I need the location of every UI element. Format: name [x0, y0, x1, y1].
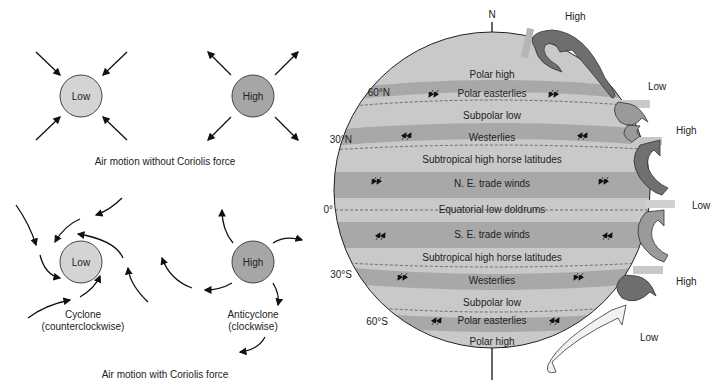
hadley-cell-south-icon	[638, 210, 668, 262]
globe: N	[323, 9, 660, 380]
latitude-30s: 30°S	[330, 269, 352, 280]
band-label: N. E. trade winds	[454, 178, 530, 189]
cell-label-high: High	[676, 125, 697, 136]
latitude-30n: 30°N	[330, 134, 352, 145]
cyclone-low-label: Low	[72, 257, 91, 268]
band-label: Westerlies	[469, 132, 516, 143]
cell-label-low: Low	[640, 332, 659, 343]
low-label: Low	[72, 91, 91, 102]
ferrel-cell-south-icon	[617, 275, 656, 301]
band-label: Subtropical high horse latitudes	[422, 252, 562, 263]
band-label: Subpolar low	[463, 110, 522, 121]
band-label: Polar easterlies	[458, 88, 527, 99]
band-label: Subpolar low	[463, 297, 522, 308]
cyclone-label-line2: (counterclockwise)	[42, 321, 125, 332]
without-coriolis-panel: Low High Air motion without Coriolis for…	[36, 52, 298, 167]
caption-without-coriolis: Air motion without Coriolis force	[95, 156, 236, 167]
cell-label-low: Low	[648, 81, 667, 92]
latitude-60s: 60°S	[366, 316, 388, 327]
band-label: Westerlies	[469, 275, 516, 286]
band-label: Equatorial low doldrums	[439, 204, 546, 215]
cell-label-high: High	[565, 11, 586, 22]
anticyclone-label-line2: (clockwise)	[228, 321, 277, 332]
anticyclone-label-line1: Anticyclone	[227, 309, 279, 320]
cell-label-high: High	[676, 276, 697, 287]
high-label: High	[243, 91, 264, 102]
band-label: Polar high	[469, 336, 514, 347]
band-label: Polar high	[469, 69, 514, 80]
cell-label-low: Low	[692, 200, 711, 211]
band-label: Polar easterlies	[458, 315, 527, 326]
atmospheric-circulation-diagram: Low High Air motion without Coriolis for…	[0, 0, 718, 385]
north-label: N	[488, 9, 495, 20]
with-coriolis-panel: Low Cyclone (counterclockwise) High Anti…	[16, 198, 302, 380]
caption-with-coriolis: Air motion with Coriolis force	[102, 369, 229, 380]
band-label: Subtropical high horse latitudes	[422, 154, 562, 165]
latitude-60n: 60°N	[368, 87, 390, 98]
latitude-equator: 0°	[323, 204, 333, 215]
anticyclone-high-label: High	[243, 257, 264, 268]
cyclone-label-line1: Cyclone	[65, 309, 102, 320]
band-label: S. E. trade winds	[454, 229, 530, 240]
